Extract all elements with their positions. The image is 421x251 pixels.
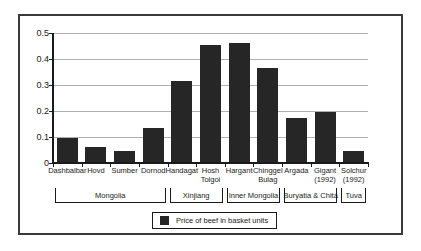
x-axis-line <box>52 162 369 164</box>
y-axis-label: 0.3 <box>23 80 49 90</box>
region-bracket-label: Mongolia <box>95 191 125 200</box>
bar <box>85 147 106 163</box>
bar <box>286 118 307 163</box>
y-axis-label: 0.5 <box>23 28 49 38</box>
bar <box>143 128 164 163</box>
region-bracket-label: Buryatia & Chita <box>284 191 338 200</box>
y-axis-label: 0.4 <box>23 54 49 64</box>
y-axis-label: 0.2 <box>23 106 49 116</box>
gridline <box>53 33 368 34</box>
bar <box>315 112 336 163</box>
y-axis-label: 0.1 <box>23 132 49 142</box>
region-bracket-label: Inner Mongolia <box>229 191 279 200</box>
bar <box>171 81 192 163</box>
region-bracket: Xinjiang <box>170 188 223 203</box>
y-axis-line <box>52 33 54 163</box>
region-bracket: Mongolia <box>55 188 166 203</box>
figure: Price of beef in basket units 00.10.20.3… <box>0 0 421 251</box>
region-bracket: Buryatia & Chita <box>284 188 337 203</box>
legend-swatch <box>160 216 169 225</box>
region-bracket: Tuva <box>341 188 366 203</box>
region-bracket-label: Tuva <box>345 191 361 200</box>
legend: Price of beef in basket units <box>152 212 277 229</box>
bar <box>229 43 250 163</box>
bar <box>257 68 278 163</box>
legend-label: Price of beef in basket units <box>176 216 268 225</box>
x-category-label: Solchur (1992) <box>326 166 382 184</box>
region-bracket: Inner Mongolia <box>227 188 280 203</box>
region-bracket-label: Xinjiang <box>183 191 210 200</box>
bar <box>200 45 221 163</box>
bar <box>57 138 78 163</box>
